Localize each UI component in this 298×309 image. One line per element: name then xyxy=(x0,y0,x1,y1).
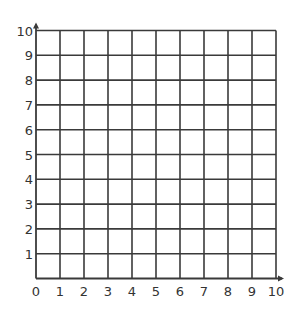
x-tick-label: 9 xyxy=(248,284,256,299)
x-axis-tick-labels: 012345678910 xyxy=(32,284,284,299)
y-tick-label: 8 xyxy=(25,73,33,88)
y-tick-label: 6 xyxy=(25,123,33,138)
x-tick-label: 7 xyxy=(200,284,208,299)
y-tick-label: 3 xyxy=(25,197,33,212)
x-axis-arrow-icon xyxy=(278,276,284,282)
gridlines xyxy=(36,31,276,279)
x-tick-label: 1 xyxy=(56,284,64,299)
y-axis-tick-labels: 12345678910 xyxy=(16,24,33,262)
x-tick-label: 2 xyxy=(80,284,88,299)
y-tick-label: 9 xyxy=(25,48,33,63)
x-tick-label: 0 xyxy=(32,284,40,299)
y-tick-label: 4 xyxy=(25,172,33,187)
x-tick-label: 10 xyxy=(268,284,285,299)
y-tick-label: 10 xyxy=(16,24,33,39)
x-tick-label: 8 xyxy=(224,284,232,299)
x-tick-label: 4 xyxy=(128,284,136,299)
y-tick-label: 5 xyxy=(25,148,33,163)
x-tick-label: 6 xyxy=(176,284,184,299)
coordinate-grid: 012345678910 12345678910 xyxy=(0,0,298,309)
y-axis-arrow-icon xyxy=(33,23,39,29)
y-tick-label: 7 xyxy=(25,98,33,113)
y-tick-label: 1 xyxy=(25,247,33,262)
x-tick-label: 5 xyxy=(152,284,160,299)
axes xyxy=(33,23,284,282)
x-tick-label: 3 xyxy=(104,284,112,299)
y-tick-label: 2 xyxy=(25,222,33,237)
